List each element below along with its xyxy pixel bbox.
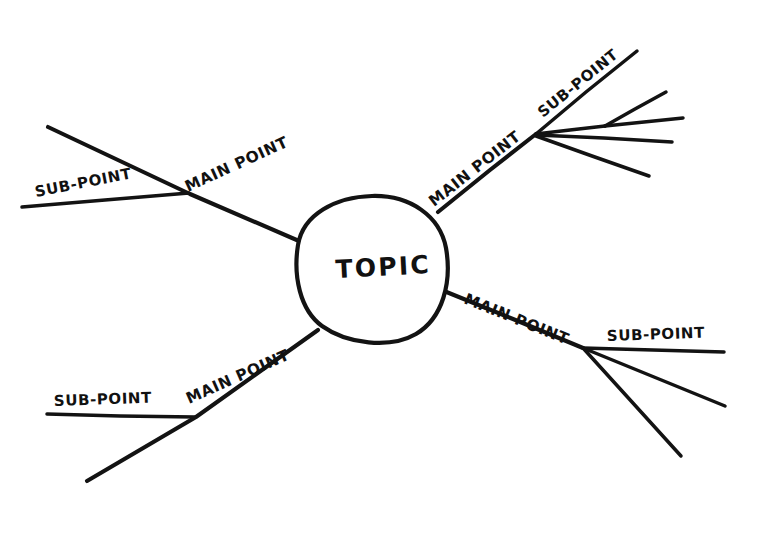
label-topic: TOPIC [335, 250, 432, 284]
mindmap-drawing: MAIN POINT SUB-POINT MAIN POINT SUB-POIN… [0, 0, 761, 534]
branch-lower-right-subline-3 [583, 348, 681, 456]
branch-upper-right-subline-3 [536, 135, 672, 142]
branch-lower-right-subline-1 [583, 348, 724, 352]
label-sub-point-lower-left: SUB-POINT [54, 389, 153, 410]
label-sub-point-lower-right: SUB-POINT [607, 324, 706, 345]
branch-lower-right-subline-2 [583, 348, 725, 406]
branch-lower-left-subline [47, 414, 195, 417]
label-main-point-upper-left: MAIN POINT [182, 133, 291, 196]
label-sub-point-upper-right: SUB-POINT [534, 45, 622, 121]
branch-upper-right-subline-4 [536, 136, 649, 176]
branch-upper-right: MAIN POINT SUB-POINT [425, 45, 683, 212]
branch-upper-right-trunk [438, 134, 536, 212]
topic-node: TOPIC [296, 196, 447, 343]
mindmap-canvas: MAIN POINT SUB-POINT MAIN POINT SUB-POIN… [0, 0, 761, 534]
label-main-point-lower-right: MAIN POINT [462, 290, 572, 348]
label-sub-point-upper-left: SUB-POINT [33, 164, 133, 200]
label-main-point-lower-left: MAIN POINT [183, 346, 292, 408]
branch-upper-left: MAIN POINT SUB-POINT [22, 127, 299, 241]
branch-lower-left: MAIN POINT SUB-POINT [47, 330, 318, 481]
label-main-point-upper-right: MAIN POINT [425, 127, 524, 210]
branch-lower-right: MAIN POINT SUB-POINT [444, 290, 725, 456]
